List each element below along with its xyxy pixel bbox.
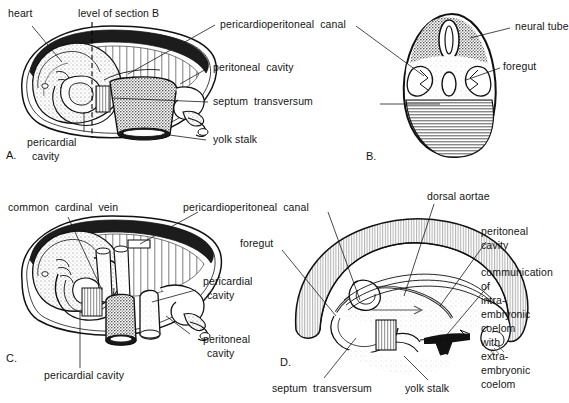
panel-id-d: D. [280,356,291,368]
label-communication-l6: with [481,336,500,348]
label-level-of-section-b: level of section B [78,7,159,19]
label-septum-transversum-a: septum transversum [213,95,313,107]
label-neural-tube: neural tube [515,20,569,32]
label-communication-l9: coelom [481,378,515,390]
label-peritoneal-cavity-d-line2: cavity [481,239,508,251]
panel-id-c: C. [6,352,17,364]
label-yolk-stalk-d: yolk stalk [405,382,449,394]
label-communication-l5: coelom [481,322,515,334]
label-foregut-b: foregut [503,60,536,72]
label-peritoneal-cavity-d-line1: peritoneal [481,225,528,237]
panel-b-drawing [356,14,510,157]
label-communication-l1: communication [481,266,553,278]
label-foregut-d: foregut [240,237,273,249]
label-heart: heart [8,7,32,19]
label-dorsal-aortae: dorsal aortae [427,190,490,202]
panel-c-drawing [22,212,222,368]
label-yolk-stalk-a: yolk stalk [213,133,257,145]
label-communication-l7: extra- [481,350,508,362]
panel-a-drawing [22,22,217,140]
panel-id-a: A. [6,149,16,161]
label-pericardial-cavity-c-line2: cavity [207,289,234,301]
panel-id-b: B. [366,150,376,162]
label-pericardioperitoneal-canal-c: pericardioperitoneal canal [183,201,309,213]
label-peritoneal-cavity-c-line2: cavity [207,347,234,359]
label-common-cardinal-vein: common cardinal vein [8,201,118,213]
label-pericardial-cavity-a-line2: cavity [32,150,59,162]
label-pericardial-cavity-a-line1: pericardial [27,136,77,148]
label-peritoneal-cavity-c-line1: peritoneal [203,333,250,345]
label-communication-l8: embryonic [481,364,530,376]
label-peritoneal-cavity-a: peritoneal cavity [213,61,294,73]
label-pericardial-cavity-c-line1: pericardial [203,275,253,287]
label-septum-transversum-d: septum transversum [272,382,372,394]
label-pericardioperitoneal-canal-a: pericardioperitoneal canal [220,18,346,30]
label-communication-l3: intra- [481,294,506,306]
label-communication-l4: embryonic [481,308,530,320]
label-communication-l2: of [481,280,490,292]
label-pericardial-cavity-c-bottom: pericardial cavity [44,369,124,381]
